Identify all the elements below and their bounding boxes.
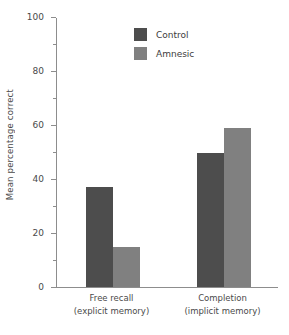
x-category-label: Free recall(explicit memory) (56, 292, 167, 317)
chart-legend: ControlAmnesic (134, 28, 194, 60)
bar-control[interactable] (197, 153, 224, 288)
legend-label: Control (156, 30, 189, 40)
y-tick-label: 20 (33, 228, 44, 238)
y-tick-label: 80 (33, 66, 44, 76)
x-axis-line (56, 287, 278, 288)
x-category-name: Free recall (56, 292, 167, 305)
x-axis-tick-labels: Free recall(explicit memory)Completion(i… (56, 292, 278, 332)
y-tick-minor (53, 98, 57, 99)
x-category-name: Completion (167, 292, 278, 305)
y-tick-label: 0 (38, 282, 44, 292)
y-tick-major: 80 (51, 71, 56, 72)
y-axis-title-text: Mean percentage correct (5, 89, 15, 200)
x-category-subtitle: (explicit memory) (56, 305, 167, 318)
y-tick-label: 60 (33, 120, 44, 130)
y-tick-major: 40 (51, 179, 56, 180)
y-tick-minor (53, 260, 57, 261)
y-tick-major: 0 (51, 287, 56, 288)
y-tick-label: 40 (33, 174, 44, 184)
y-tick-major: 60 (51, 125, 56, 126)
y-tick-major: 20 (51, 233, 56, 234)
bar-amnesic[interactable] (224, 128, 251, 287)
x-category-label: Completion(implicit memory) (167, 292, 278, 317)
y-axis-title: Mean percentage correct (2, 0, 18, 290)
y-tick-minor (53, 206, 57, 207)
y-tick-label: 100 (27, 12, 44, 22)
legend-item-amnesic[interactable]: Amnesic (134, 47, 194, 60)
legend-item-control[interactable]: Control (134, 28, 194, 41)
bar-amnesic[interactable] (113, 247, 140, 287)
bar-control[interactable] (86, 187, 113, 287)
legend-label: Amnesic (156, 49, 194, 59)
y-tick-minor (53, 44, 57, 45)
y-tick-minor (53, 152, 57, 153)
legend-swatch-icon (134, 28, 147, 41)
bar-chart-figure: Mean percentage correct 020406080100 Fre… (0, 0, 289, 335)
x-category-subtitle: (implicit memory) (167, 305, 278, 318)
y-tick-major: 100 (51, 17, 56, 18)
legend-swatch-icon (134, 47, 147, 60)
